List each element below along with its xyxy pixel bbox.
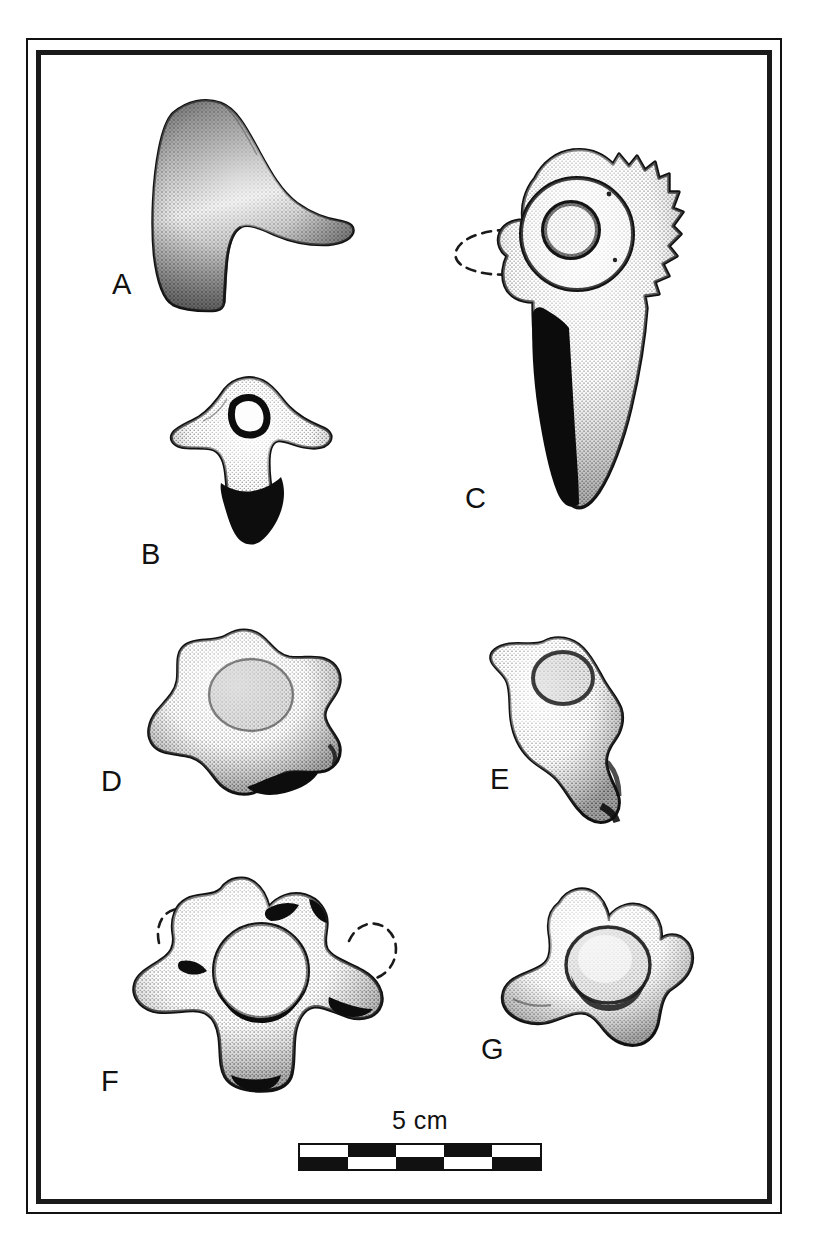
scale-bar-cell [300,1145,348,1157]
specimen-a-outline [153,100,354,311]
specimen-b [165,365,345,545]
scale-bar-cell [396,1145,444,1157]
specimen-label-e: E [490,765,510,794]
scale-bar-cell [396,1157,444,1169]
specimen-label-a: A [112,270,132,299]
specimen-d [129,625,359,825]
specimen-label-d: D [101,767,122,796]
specimen-f [81,863,431,1093]
specimen-label-f: F [101,1067,119,1096]
scale-bar-cell [492,1157,540,1169]
specimen-label-b: B [141,540,161,569]
scale-bar-cell [444,1157,492,1169]
scale-bar-group: 5 cm [298,1108,542,1171]
specimen-b-outline [171,378,331,545]
scale-bar-cell [492,1145,540,1157]
scale-bar [298,1143,542,1171]
scale-bar-cell [348,1157,396,1169]
scale-bar-row-top [300,1145,540,1157]
scale-bar-row-bottom [300,1157,540,1169]
specimen-label-c: C [465,484,486,513]
scale-bar-cell [348,1145,396,1157]
specimen-d-outline [149,630,341,795]
specimen-c [439,130,699,520]
specimen-e [471,630,651,830]
specimen-a [129,95,369,325]
specimen-label-g: G [481,1035,504,1064]
figure-plate: A [0,0,820,1249]
scale-bar-cell [300,1157,348,1169]
scale-bar-cell [444,1145,492,1157]
specimen-stage: A [41,55,767,1199]
specimen-g-outline [502,889,692,1045]
specimen-c-outline [498,150,683,508]
scale-bar-caption: 5 cm [298,1108,542,1133]
specimen-e-outline [491,638,623,823]
